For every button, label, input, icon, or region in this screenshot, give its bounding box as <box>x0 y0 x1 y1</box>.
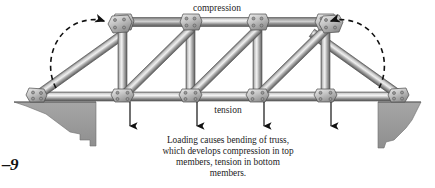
gusset-plate-bottom-4 <box>314 89 337 102</box>
tension-label: tension <box>214 105 242 115</box>
caption-line-3: members, tension in bottom <box>176 157 281 167</box>
compression-label: compression <box>193 3 241 13</box>
gusset-plate-apex-left <box>108 15 132 33</box>
panel-diagonal-1 <box>120 26 194 99</box>
truss-diagram-svg: compression tension Loading causes bendi… <box>0 0 435 188</box>
gusset-plate-bottom-2 <box>179 89 202 102</box>
caption-line-1: Loading causes bending of truss, <box>167 135 289 145</box>
figure-number-label: –9 <box>2 155 18 175</box>
top-chord-members <box>120 18 327 27</box>
ground-right <box>378 102 421 148</box>
gusset-plate-top-2 <box>180 14 202 30</box>
support-gusset-left <box>26 88 47 102</box>
gusset-plate-bottom-1 <box>111 89 134 102</box>
gusset-plate-top-3 <box>247 14 269 30</box>
support-gusset-right <box>388 88 409 102</box>
bottom-chord-members <box>34 92 403 101</box>
panel-diagonal-3 <box>255 26 329 99</box>
caption-line-4: members. <box>210 168 246 178</box>
gusset-plate-bottom-3 <box>246 89 269 102</box>
panel-diagonal-2 <box>187 26 261 99</box>
truss-figure: compression tension Loading causes bendi… <box>0 0 435 188</box>
caption-line-2: which develops compression in top <box>162 146 294 156</box>
figure-caption: Loading causes bending of truss, which d… <box>162 135 294 178</box>
ground-left <box>14 102 96 146</box>
gusset-plate-apex-right <box>319 15 343 33</box>
end-diagonal-left <box>32 32 124 101</box>
